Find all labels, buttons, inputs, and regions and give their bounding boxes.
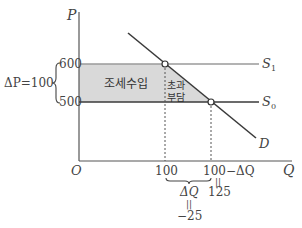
demand-line-label: D (258, 136, 270, 151)
delta-q-value: −25 (177, 209, 202, 223)
q-after-value: 125 (208, 185, 231, 199)
y-axis-label: P (66, 7, 77, 23)
tax-incidence-chart: P Q O 600 500 ΔP=100 100 100−ΔQ ΔQ || −2… (0, 0, 302, 228)
excess-burden-label-line2: 부담 (167, 92, 185, 103)
s0-line-label: S0 (262, 94, 276, 111)
x-tick-100: 100 (155, 164, 178, 178)
delta-q-label: ΔQ (179, 185, 199, 199)
s1-line-label: S1 (262, 56, 276, 73)
excess-burden-label-line1: 초과 (167, 80, 185, 91)
equilibrium-point-tax (162, 61, 168, 67)
x-axis-label: Q (283, 162, 295, 178)
tax-revenue-label: 조세수입 (104, 77, 148, 91)
y-tick-600: 600 (59, 57, 82, 71)
equilibrium-point-notax (208, 99, 214, 105)
x-tick-100-minus-dq: 100−ΔQ (203, 164, 255, 178)
delta-q-brace (166, 178, 211, 184)
delta-p-label: ΔP=100 (4, 76, 54, 90)
origin-label: O (71, 163, 82, 178)
y-tick-500: 500 (59, 95, 82, 109)
